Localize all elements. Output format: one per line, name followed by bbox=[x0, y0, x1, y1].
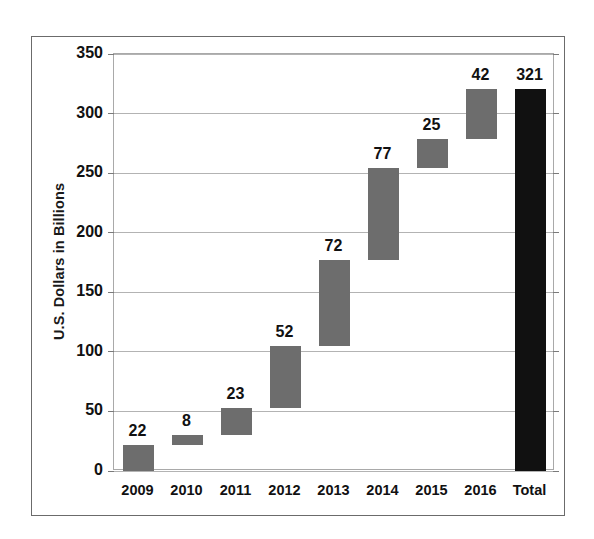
bar-step bbox=[123, 445, 153, 471]
x-tick-label: Total bbox=[499, 483, 560, 498]
bar-data-label: 25 bbox=[404, 117, 458, 133]
bar-data-label: 321 bbox=[502, 67, 556, 83]
bar-data-label: 42 bbox=[453, 67, 507, 83]
bar-data-label: 8 bbox=[159, 413, 213, 429]
axis-tick bbox=[108, 292, 114, 293]
axis-tick bbox=[108, 232, 114, 233]
bar-step bbox=[270, 346, 300, 408]
y-tick-label: 350 bbox=[43, 45, 103, 61]
bar-step bbox=[319, 260, 349, 346]
y-tick-label: 100 bbox=[43, 343, 103, 359]
gridline bbox=[114, 351, 553, 352]
axis-tick bbox=[553, 351, 559, 352]
y-tick-label: 200 bbox=[43, 224, 103, 240]
bar-data-label: 72 bbox=[306, 238, 360, 254]
waterfall-chart: U.S. Dollars in Billions 050100150200250… bbox=[0, 0, 594, 539]
gridline bbox=[114, 411, 553, 412]
y-tick-label: 300 bbox=[43, 105, 103, 121]
bar-data-label: 23 bbox=[208, 386, 262, 402]
gridline bbox=[114, 232, 553, 233]
axis-tick bbox=[553, 232, 559, 233]
y-tick-label: 150 bbox=[43, 283, 103, 299]
axis-tick bbox=[553, 411, 559, 412]
y-tick-label: 250 bbox=[43, 164, 103, 180]
axis-tick bbox=[108, 351, 114, 352]
axis-tick bbox=[553, 173, 559, 174]
axis-tick bbox=[108, 113, 114, 114]
bar-step bbox=[368, 168, 398, 260]
bar-step bbox=[221, 408, 251, 435]
bar-data-label: 52 bbox=[257, 324, 311, 340]
gridline bbox=[114, 471, 553, 472]
y-tick-label: 50 bbox=[43, 402, 103, 418]
axis-tick bbox=[553, 471, 559, 472]
bar-step bbox=[172, 435, 202, 445]
bar-data-label: 22 bbox=[110, 423, 164, 439]
y-tick-label: 0 bbox=[43, 462, 103, 478]
axis-tick bbox=[108, 54, 114, 55]
plot-area bbox=[113, 53, 554, 470]
bar-total bbox=[515, 89, 545, 471]
axis-tick bbox=[108, 411, 114, 412]
bar-step bbox=[466, 89, 496, 139]
bar-step bbox=[417, 139, 447, 169]
axis-tick bbox=[553, 113, 559, 114]
gridline bbox=[114, 173, 553, 174]
axis-tick bbox=[553, 292, 559, 293]
axis-tick bbox=[108, 471, 114, 472]
axis-tick bbox=[108, 173, 114, 174]
gridline bbox=[114, 54, 553, 55]
axis-tick bbox=[553, 54, 559, 55]
bar-data-label: 77 bbox=[355, 146, 409, 162]
